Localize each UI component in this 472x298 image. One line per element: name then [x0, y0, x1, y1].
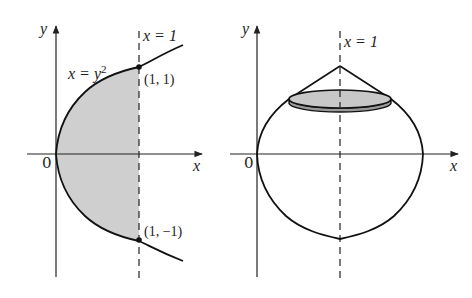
left-panel: y x 0 x = 1 x = y2 (1, 1) (1, −1)	[27, 20, 202, 278]
y-axis-label: y	[38, 20, 48, 38]
curve-label-base: x = y	[67, 65, 102, 83]
origin-label: 0	[244, 154, 254, 172]
right-panel: y x 0 x = 1	[230, 20, 458, 278]
origin-label: 0	[42, 154, 52, 172]
point-top-label: (1, 1)	[144, 72, 175, 88]
x-axis-label: x	[192, 157, 200, 174]
y-axis-label: y	[240, 20, 250, 38]
point-1-neg1	[136, 237, 142, 243]
x-axis-label: x	[449, 157, 457, 174]
point-1-1	[136, 64, 142, 70]
line-label: x = 1	[343, 33, 378, 50]
figure-canvas: y x 0 x = 1 x = y2 (1, 1) (1, −1) y x 0 …	[0, 0, 472, 298]
curve-label-exp: 2	[101, 63, 107, 75]
point-bottom-label: (1, −1)	[144, 224, 183, 240]
line-label: x = 1	[142, 27, 177, 44]
curve-label: x = y2	[67, 63, 107, 83]
